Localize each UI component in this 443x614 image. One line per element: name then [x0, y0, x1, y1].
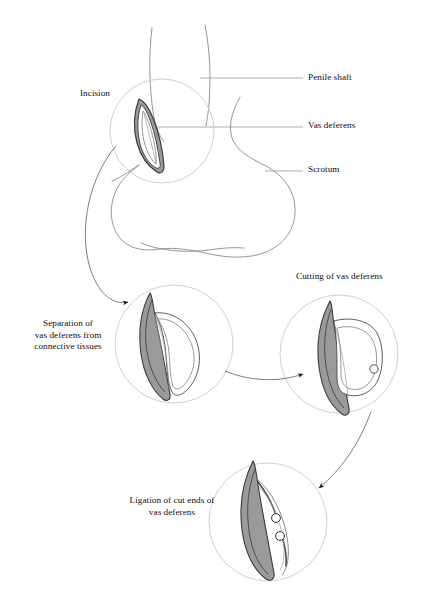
step-separation-group: [115, 285, 233, 403]
leader-line-group: [150, 78, 303, 171]
label-separation-of-vas-deferens: Separation of vas deferens from connecti…: [22, 318, 114, 353]
penile-shaft-right-edge: [205, 25, 210, 126]
label-ligation-of-cut-ends: Ligation of cut ends of vas deferens: [92, 495, 252, 518]
arrow-separation-to-cutting: [225, 371, 303, 380]
step-cutting-group: [280, 295, 398, 415]
step-incision-group: [110, 79, 214, 183]
scrotum-left-fold: [112, 165, 139, 181]
scrotum-inner-contour: [141, 243, 244, 251]
vasectomy-diagram: Penile shaft Vas deferens Scrotum Incisi…: [0, 0, 443, 614]
label-incision: Incision: [80, 88, 110, 100]
ligation-knot-lower: [276, 532, 285, 541]
ligation-tissue-band: [241, 461, 274, 580]
label-penile-shaft: Penile shaft: [308, 72, 352, 84]
step-ligation-group: [209, 461, 327, 581]
cutting-cut-point: [370, 365, 378, 373]
ligation-knot-upper: [272, 514, 281, 523]
arrow-cutting-to-ligation: [319, 412, 371, 488]
diagram-canvas: [0, 0, 443, 614]
label-scrotum: Scrotum: [308, 164, 339, 176]
label-cutting-of-vas-deferens: Cutting of vas deferens: [296, 271, 383, 283]
arrow-incision-to-separation: [85, 146, 128, 303]
label-vas-deferens: Vas deferens: [308, 120, 355, 132]
